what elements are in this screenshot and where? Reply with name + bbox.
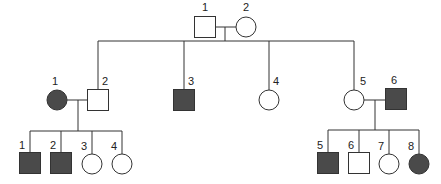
individual-label: 7: [378, 140, 384, 152]
individual-label: 3: [81, 140, 87, 152]
individual-label: 2: [102, 75, 108, 87]
male-square-icon: [349, 153, 370, 174]
individual-label: 6: [391, 74, 397, 86]
female-circle-icon: [112, 154, 132, 174]
individual-label: 4: [273, 75, 279, 87]
individual-II-5: 5: [344, 75, 366, 110]
individual-label: 5: [317, 139, 323, 151]
individual-II-6: 6: [386, 74, 407, 110]
individual-label: 5: [360, 75, 366, 87]
individual-label: 3: [188, 75, 194, 87]
female-circle-icon: [379, 154, 399, 174]
individual-I-1: 1: [195, 1, 216, 38]
individual-label: 1: [19, 139, 25, 151]
female-circle-icon: [82, 154, 102, 174]
individual-label: 2: [243, 1, 249, 13]
male-square-icon: [174, 90, 195, 111]
male-square-icon: [318, 153, 339, 174]
male-square-icon: [195, 17, 216, 38]
individual-II-1: 1: [47, 75, 67, 110]
female-circle-icon: [259, 90, 279, 110]
individual-label: 4: [111, 140, 117, 152]
female-circle-icon: [344, 90, 364, 110]
pedigree-diagram: 1212345612345678: [0, 0, 441, 184]
individual-label: 1: [52, 75, 58, 87]
male-square-icon: [386, 89, 407, 110]
individual-label: 2: [50, 139, 56, 151]
female-circle-icon: [47, 90, 67, 110]
male-square-icon: [88, 90, 109, 111]
individual-I-2: 2: [236, 1, 256, 37]
individual-label: 1: [202, 1, 208, 13]
male-square-icon: [51, 153, 72, 174]
individual-label: 8: [408, 140, 414, 152]
male-square-icon: [20, 153, 41, 174]
individual-label: 6: [348, 139, 354, 151]
female-circle-icon: [409, 154, 429, 174]
female-circle-icon: [236, 17, 256, 37]
